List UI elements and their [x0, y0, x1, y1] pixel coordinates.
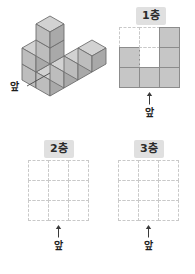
grid-cell-r1c2[interactable] — [48, 160, 69, 181]
grid-cell-r2c1[interactable] — [118, 180, 139, 201]
grid-cell-r1c1[interactable] — [119, 27, 140, 48]
layer-1-front-caption: 앞 — [145, 108, 154, 118]
grid-cell-r3c2[interactable] — [48, 200, 69, 221]
up-arrow-icon — [145, 92, 154, 105]
grid-cell-r2c2[interactable] — [139, 47, 160, 68]
isometric-solid-svg — [8, 12, 113, 104]
layer-1-label: 1층 — [136, 7, 166, 25]
grid-cell-r1c1[interactable] — [28, 160, 49, 181]
grid-cell-r3c2[interactable] — [138, 200, 159, 221]
grid-cell-r1c3[interactable] — [159, 27, 180, 48]
grid-cell-r2c1[interactable] — [119, 47, 140, 68]
layer-2-label: 2층 — [44, 140, 74, 158]
grid-cell-r2c2[interactable] — [48, 180, 69, 201]
grid-cell-r1c1[interactable] — [118, 160, 139, 181]
grid-cell-r2c3[interactable] — [159, 47, 180, 68]
isometric-solid-figure — [8, 12, 113, 104]
grid-cell-r3c1[interactable] — [118, 200, 139, 221]
layer-2-grid[interactable] — [28, 160, 88, 220]
grid-cell-r1c2[interactable] — [138, 160, 159, 181]
worksheet-page: 앞 1층 앞 2층 앞 — [0, 0, 195, 274]
grid-cell-r3c2[interactable] — [139, 67, 160, 88]
grid-cell-r3c1[interactable] — [28, 200, 49, 221]
grid-cell-r2c1[interactable] — [28, 180, 49, 201]
front-pointer-line — [26, 72, 52, 88]
grid-cell-r3c3[interactable] — [159, 67, 180, 88]
layer-1-front-marker: 앞 — [132, 92, 166, 118]
grid-cell-r2c3[interactable] — [158, 180, 179, 201]
grid-cell-r1c3[interactable] — [68, 160, 89, 181]
grid-cell-r2c3[interactable] — [68, 180, 89, 201]
up-arrow-icon — [54, 225, 63, 238]
grid-cell-r1c2[interactable] — [139, 27, 160, 48]
solid-front-caption: 앞 — [10, 82, 19, 92]
layer-2-front-caption: 앞 — [54, 241, 63, 251]
grid-cell-r3c3[interactable] — [68, 200, 89, 221]
layer-3-grid[interactable] — [118, 160, 178, 220]
layer-3-front-marker: 앞 — [131, 225, 165, 251]
grid-cell-r3c3[interactable] — [158, 200, 179, 221]
grid-cell-r1c3[interactable] — [158, 160, 179, 181]
layer-3-front-caption: 앞 — [144, 241, 153, 251]
layer-2-front-marker: 앞 — [41, 225, 75, 251]
grid-cell-r2c2[interactable] — [138, 180, 159, 201]
grid-cell-r3c1[interactable] — [119, 67, 140, 88]
layer-3-label: 3층 — [134, 140, 164, 158]
up-arrow-icon — [144, 225, 153, 238]
layer-1-grid[interactable] — [119, 27, 179, 87]
